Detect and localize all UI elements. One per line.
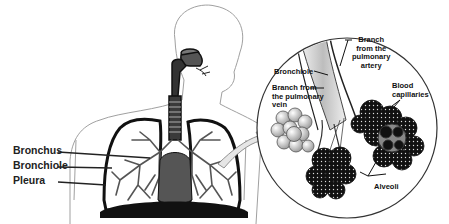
alveoli-cross-section xyxy=(378,124,406,152)
left-lung xyxy=(104,119,161,210)
inset-label-vein-branch: Branch from the pulmonary vein xyxy=(272,84,324,110)
right-lung xyxy=(188,120,240,210)
inset-label-alveoli: Alveoli xyxy=(374,183,399,192)
label-pleura: Pleura xyxy=(13,174,45,186)
inset-label-capillaries: Blood capillaries xyxy=(392,82,429,99)
inset-label-bronchiole: Bronchiole xyxy=(274,68,313,77)
heart xyxy=(158,153,192,204)
inset-label-artery-branch: Branch from the pulmonary artery xyxy=(352,36,390,70)
respiratory-diagram: Bronchus Bronchiole Pleura Bronchiole Br… xyxy=(0,0,449,224)
label-bronchiole: Bronchiole xyxy=(13,159,68,171)
label-bronchus: Bronchus xyxy=(13,144,62,156)
